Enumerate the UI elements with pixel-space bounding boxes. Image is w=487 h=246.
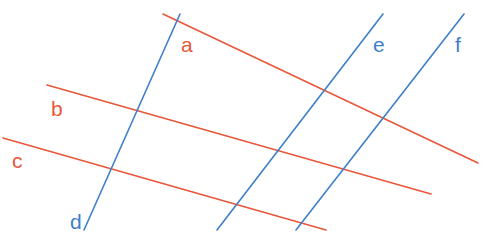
label-d: d [70, 210, 82, 233]
line-d [84, 14, 180, 230]
label-f: f [455, 33, 461, 56]
label-b: b [51, 97, 63, 120]
lines-layer [3, 14, 478, 230]
line-e [217, 14, 383, 230]
label-a: a [181, 33, 193, 56]
label-c: c [12, 149, 23, 172]
line-b [47, 85, 431, 194]
label-e: e [373, 33, 385, 56]
parallel-lines-diagram: abcdef [0, 0, 487, 246]
labels-layer: abcdef [12, 33, 461, 233]
line-a [163, 14, 478, 163]
